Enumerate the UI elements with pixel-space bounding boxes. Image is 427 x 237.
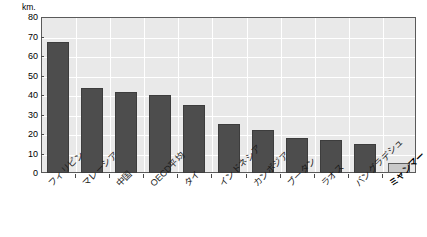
- x-axis-category-label: OECD平均: [147, 149, 187, 189]
- x-axis-category-label: ラオス: [318, 161, 346, 189]
- x-axis-category-label: ブータン: [284, 155, 319, 190]
- x-axis-category-label: 中国: [113, 167, 135, 189]
- x-axis-category-label: タイ: [181, 167, 203, 189]
- x-axis-category-label: マレーシア: [79, 148, 120, 189]
- x-axis-category-label: フィリピン: [45, 148, 86, 189]
